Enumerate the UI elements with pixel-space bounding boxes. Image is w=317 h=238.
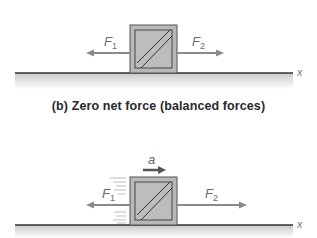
x-axis-label: x	[297, 218, 303, 230]
force-subscript: 2	[200, 41, 205, 51]
force-symbol: F	[192, 34, 200, 49]
block	[130, 25, 177, 73]
acceleration-arrow	[143, 166, 166, 174]
acceleration-label: a	[148, 152, 155, 167]
force-subscript: 1	[112, 41, 117, 51]
force-subscript: 2	[213, 193, 218, 203]
panel-c-diagram	[15, 166, 293, 238]
force-symbol: F	[205, 186, 213, 201]
force-label-f2: F2	[192, 34, 205, 51]
ground-surface	[15, 73, 293, 89]
panel-b-caption: (b) Zero net force (balanced forces)	[0, 99, 317, 113]
block	[130, 177, 177, 225]
x-axis-label: x	[297, 66, 303, 78]
force-subscript: 1	[110, 193, 115, 203]
force-label-f1: F1	[102, 186, 115, 203]
force-symbol: F	[102, 186, 110, 201]
force-label-f2: F2	[205, 186, 218, 203]
force-label-f1: F1	[104, 34, 117, 51]
ground-surface	[15, 225, 293, 238]
force-symbol: F	[104, 34, 112, 49]
panel-b-diagram	[15, 25, 293, 89]
